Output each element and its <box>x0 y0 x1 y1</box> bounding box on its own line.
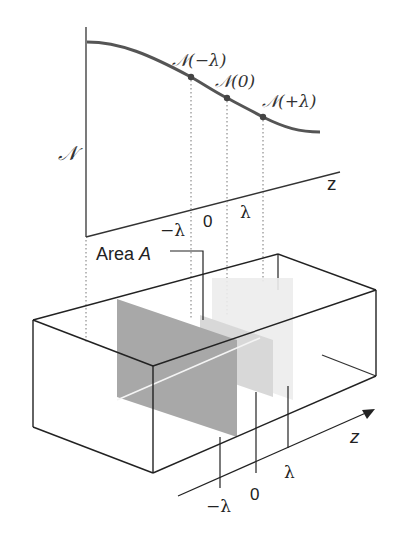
point-zero <box>224 95 230 101</box>
volume-box: Area A z −λ 0 λ <box>33 244 376 516</box>
tick-minus-lambda-bottom: −λ <box>206 496 231 516</box>
tick-lambda-bottom: λ <box>284 462 295 482</box>
z-axis-label-top: z <box>327 173 337 194</box>
tick-lambda-top: λ <box>240 202 251 222</box>
z-axis <box>86 172 340 237</box>
label-n-plus-lambda: 𝒩(+λ) <box>262 91 316 111</box>
area-label: Area A <box>96 244 151 264</box>
tick-minus-lambda-top: −λ <box>160 220 185 240</box>
point-plus-lambda <box>260 114 266 120</box>
y-axis-label: 𝒩 <box>58 141 83 165</box>
z-axis-label-bottom: z <box>349 426 360 447</box>
density-graph: 𝒩 𝒩(−λ) 𝒩(0) 𝒩(+λ) z −λ 0 λ <box>58 27 340 342</box>
tick-zero-bottom: 0 <box>250 485 259 504</box>
tick-zero-top: 0 <box>203 212 212 231</box>
box-edge-back-bottom <box>322 355 376 376</box>
box-edge-bottom-front <box>33 427 153 473</box>
label-n-zero: 𝒩(0) <box>215 71 255 91</box>
point-minus-lambda <box>188 74 194 80</box>
area-leader-line <box>170 251 203 320</box>
diagram-canvas: 𝒩 𝒩(−λ) 𝒩(0) 𝒩(+λ) z −λ 0 λ Area <box>0 0 402 534</box>
label-n-minus-lambda: 𝒩(−λ) <box>172 50 226 70</box>
